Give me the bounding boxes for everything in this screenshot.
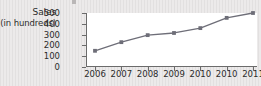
y-tick-label: 100 [32,52,60,60]
data-point-marker [93,49,97,53]
x-tick-label: 2011 [236,70,261,79]
x-tick-mark [121,67,122,71]
y-tick-mark [82,45,86,46]
x-tick-mark [200,67,201,71]
data-point-marker [172,31,176,35]
y-tick-label: 500 [32,9,60,17]
data-point-marker [119,40,123,44]
chart-figure: Sales (in hundreds) 01002003004005002006… [0,0,261,86]
x-tick-mark [174,67,175,71]
x-tick-mark [95,67,96,71]
x-tick-mark [148,67,149,71]
y-tick-mark [82,13,86,14]
y-tick-mark [82,35,86,36]
data-point-marker [225,16,229,20]
x-tick-mark [253,67,254,71]
y-tick-mark [82,56,86,57]
data-point-marker [146,33,150,37]
data-point-marker [198,26,202,30]
data-point-marker [251,11,255,15]
y-tick-label: 200 [32,41,60,49]
y-tick-label: 0 [32,63,60,71]
y-tick-label: 400 [32,20,60,28]
x-tick-mark [227,67,228,71]
y-tick-mark [82,24,86,25]
y-tick-label: 300 [32,31,60,39]
y-tick-mark [82,67,86,68]
